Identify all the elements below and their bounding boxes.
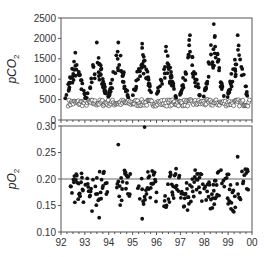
y-tick-label: 500 bbox=[39, 94, 56, 105]
x-tick-label: 99 bbox=[223, 237, 235, 248]
y-tick-label: 0.15 bbox=[37, 200, 57, 211]
y-axis-label: pO2 bbox=[5, 168, 21, 190]
po2-panel: 0.100.150.200.250.30pO292939495969798990… bbox=[5, 121, 258, 249]
x-tick-label: 94 bbox=[103, 237, 115, 248]
y-tick-label: 0.20 bbox=[37, 174, 57, 185]
x-tick-label: 98 bbox=[199, 237, 211, 248]
y-axis-label: pCO2 bbox=[5, 54, 21, 85]
y-tick-label: 1000 bbox=[34, 74, 57, 85]
y-tick-label: 0.10 bbox=[37, 227, 57, 238]
y-tick-label: 0.25 bbox=[37, 147, 57, 158]
chart: 05001000150020002500pCO2 0.100.150.200.2… bbox=[0, 0, 266, 257]
x-tick-label: 97 bbox=[175, 237, 187, 248]
y-tick-label: 1500 bbox=[34, 53, 57, 64]
pco2-panel: 05001000150020002500pCO2 bbox=[5, 13, 252, 126]
y-tick-label: 0.30 bbox=[37, 121, 57, 132]
pco2-points bbox=[63, 22, 251, 108]
x-tick-label: 92 bbox=[55, 237, 67, 248]
x-tick-label: 95 bbox=[127, 237, 139, 248]
y-tick-label: 2000 bbox=[34, 33, 57, 44]
y-tick-label: 2500 bbox=[34, 13, 57, 24]
x-tick-label: 96 bbox=[151, 237, 163, 248]
x-tick-label: 93 bbox=[79, 237, 91, 248]
x-tick-label: 00 bbox=[246, 237, 258, 248]
po2-points bbox=[69, 125, 250, 220]
